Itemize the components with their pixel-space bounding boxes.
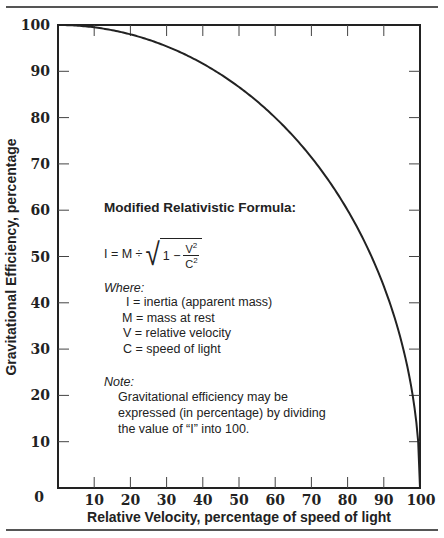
x-tick-label: 80: [328, 493, 368, 507]
x-tick-label: 30: [147, 493, 187, 507]
definition-item: C = speed of light: [122, 342, 364, 358]
x-tick-label: 100: [401, 493, 441, 507]
x-axis-label: Relative Velocity, percentage of speed o…: [57, 509, 421, 525]
note-line: Gravitational efficiency may be: [118, 389, 364, 405]
x-tick-label: 10: [74, 493, 114, 507]
radical-sign-icon: √: [145, 238, 159, 269]
y-axis-label: Gravitational Efficiency, percentage: [3, 82, 19, 432]
numerator: V: [185, 243, 192, 255]
definition-item: M = mass at rest: [122, 311, 364, 327]
formula: I = M ÷ √ 1 − V2 C2: [104, 237, 364, 271]
x-tick-label: 50: [219, 493, 259, 507]
definition-item: I = inertia (apparent mass): [122, 295, 364, 311]
formula-one: 1 −: [163, 249, 181, 263]
definitions-list: I = inertia (apparent mass) M = mass at …: [122, 295, 364, 357]
y-tick-label: 0: [4, 490, 44, 504]
denominator-exp: 2: [193, 256, 197, 265]
square-root: √ 1 − V2 C2: [145, 238, 202, 269]
formula-title: Modified Relativistic Formula:: [104, 200, 364, 215]
x-tick-label: 40: [183, 493, 223, 507]
x-tick-label: 90: [364, 493, 404, 507]
y-tick-label: 100: [10, 18, 50, 32]
numerator-exp: 2: [193, 241, 197, 250]
bottom-rule: [6, 529, 438, 531]
note-line: expressed (in percentage) by dividing: [118, 405, 364, 421]
formula-annotation: Modified Relativistic Formula: I = M ÷ √…: [104, 200, 364, 437]
formula-lhs: I = M ÷: [104, 247, 142, 261]
note-line: the value of “I” into 100.: [118, 421, 364, 437]
x-tick-label: 70: [291, 493, 331, 507]
x-tick-label: 20: [110, 493, 150, 507]
note-text: Gravitational efficiency may be expresse…: [118, 389, 364, 437]
fraction: V2 C2: [183, 241, 199, 269]
y-tick-label: 10: [10, 435, 50, 449]
definition-item: V = relative velocity: [122, 326, 364, 342]
denominator: C: [185, 258, 193, 270]
where-label: Where:: [104, 281, 364, 295]
y-tick-label: 90: [10, 64, 50, 78]
x-tick-label: 60: [255, 493, 295, 507]
note-label: Note:: [104, 375, 364, 389]
